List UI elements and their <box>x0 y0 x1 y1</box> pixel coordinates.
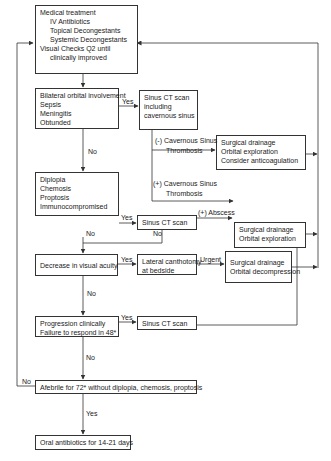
node-line: Obtunded <box>40 118 114 127</box>
node-line: Surgical drainage <box>230 258 287 267</box>
surgical-decompression-box: Surgical drainage Orbital decompression <box>225 251 292 283</box>
node-line: Failure to respond in 48* <box>40 328 114 337</box>
edge-label-no: No <box>153 230 162 238</box>
sinus-ct-cavernous-box: Sinus CT scan including cavernous sinus <box>139 90 198 130</box>
node-line: Chemosis <box>40 184 114 193</box>
edge-label-urgent: Urgent <box>200 256 221 264</box>
edge-label-yes: Yes <box>86 410 97 418</box>
lateral-canthotomy-box: Lateral canthotomy at bedside <box>137 254 197 275</box>
node-line: including <box>144 102 193 111</box>
node-line: clinically improved <box>40 53 133 62</box>
sinus-ct-scan-box-3: Sinus CT scan <box>137 316 197 330</box>
node-line: Topical Decongestants <box>40 26 133 35</box>
edge-label-no: No <box>86 354 95 362</box>
edge-label-neg-cst: (-) Cavernous Sinus <box>155 137 217 145</box>
oral-antibiotics-box: Oral antibiotics for 14-21 days <box>35 435 131 450</box>
edge-label-yes: Yes <box>121 214 132 222</box>
node-line: Consider anticoagulation <box>221 156 301 165</box>
node-line: Sinus CT scan <box>142 218 192 227</box>
edge-label-yes: Yes <box>121 314 132 322</box>
node-line: Surgical drainage <box>221 138 301 147</box>
node-line: Afebrile for 72* without diplopia, chemo… <box>40 383 192 392</box>
edge-label-neg-cst-2: Thrombosis <box>166 147 203 155</box>
node-line: Proptosis <box>40 193 114 202</box>
sinus-ct-scan-box-2: Sinus CT scan <box>137 215 197 230</box>
edge-label-abscess: (+) Abscess <box>198 209 235 217</box>
afebrile-box: Afebrile for 72* without diplopia, chemo… <box>35 380 197 394</box>
node-line: Sepsis <box>40 100 114 109</box>
node-line: IV Antibiotics <box>40 17 133 26</box>
edge-label-no: No <box>88 148 97 156</box>
bilateral-involvement-box: Bilateral orbital involvement Sepsis Men… <box>35 88 119 129</box>
node-line: Sinus CT scan <box>144 93 193 102</box>
node-line: Systemic Decongestants <box>40 35 133 44</box>
edge-label-pos-cst: (+) Cavernous Sinus <box>153 180 217 188</box>
node-line: Diplopia <box>40 175 114 184</box>
diplopia-box: Diplopia Chemosis Proptosis Immunocompro… <box>35 172 119 216</box>
node-line: Orbital exploration <box>239 234 301 243</box>
edge-label-no: No <box>87 290 96 298</box>
node-line: Orbital exploration <box>221 147 301 156</box>
edge-label-no: No <box>22 378 31 386</box>
surgical-exploration-box: Surgical drainage Orbital exploration <box>234 222 306 248</box>
node-line: Oral antibiotics for 14-21 days <box>40 438 126 447</box>
edge-label-yes: Yes <box>121 256 132 264</box>
surgical-anticoagulation-box: Surgical drainage Orbital exploration Co… <box>216 135 306 170</box>
node-line: Lateral canthotomy <box>142 257 192 266</box>
node-line: Orbital decompression <box>230 267 287 276</box>
node-line: at bedside <box>142 266 192 275</box>
node-line: Immunocompromised <box>40 202 114 211</box>
node-line: Visual Checks Q2 until <box>40 44 133 53</box>
node-line: Medical treatment <box>40 8 133 17</box>
progression-box: Progression clinically Failure to respon… <box>35 316 119 337</box>
node-line: Bilateral orbital involvement <box>40 91 114 100</box>
edge-label-no: No <box>86 230 95 238</box>
node-line: Meningitis <box>40 109 114 118</box>
edge-label-pos-cst-2: Thrombosis <box>166 190 203 198</box>
medical-treatment-box: Medical treatment IV Antibiotics Topical… <box>35 5 138 74</box>
node-line: Sinus CT scan <box>142 319 192 328</box>
edge-label-yes: Yes <box>122 98 133 106</box>
node-line: Surgical drainage <box>239 225 301 234</box>
node-line: Decrease in visual acuity <box>40 261 113 270</box>
node-line: cavernous sinus <box>144 111 193 120</box>
node-line: Progression clinically <box>40 319 114 328</box>
visual-acuity-box: Decrease in visual acuity <box>35 254 118 276</box>
